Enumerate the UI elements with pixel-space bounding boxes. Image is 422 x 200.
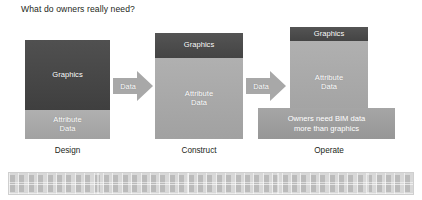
spreadsheet-strip-image xyxy=(8,172,414,195)
design-attribute-block: Attribute Data xyxy=(25,110,110,139)
operate-graphics-label: Graphics xyxy=(314,30,344,39)
spreadsheet-section-dividers xyxy=(9,173,413,194)
stage-caption-design: Design xyxy=(25,146,110,155)
data-arrow-2: Data xyxy=(246,71,286,101)
construct-attribute-block: Attribute Data xyxy=(155,58,243,139)
construct-graphics-label: Graphics xyxy=(184,41,214,50)
data-arrow-1: Data xyxy=(113,71,153,101)
design-attribute-label-line2: Data xyxy=(59,125,75,134)
page-title: What do owners really need? xyxy=(21,4,135,14)
construct-attribute-label-line2: Data xyxy=(191,99,207,108)
construct-graphics-block: Graphics xyxy=(155,33,243,58)
design-graphics-block: Graphics xyxy=(25,40,110,110)
operate-graphics-block: Graphics xyxy=(290,27,368,41)
diagram-canvas: What do owners really need? Graphics Att… xyxy=(0,0,422,200)
operate-attribute-label-line2: Data xyxy=(321,83,337,92)
data-arrow-1-label: Data xyxy=(113,82,143,91)
owners-callout: Owners need BIM data more than graphics xyxy=(258,108,395,139)
owners-callout-line1: Owners need BIM data xyxy=(288,114,366,124)
stage-caption-operate: Operate xyxy=(290,146,368,155)
stage-caption-construct: Construct xyxy=(155,146,243,155)
data-arrow-2-label: Data xyxy=(246,82,276,91)
design-graphics-label: Graphics xyxy=(52,71,82,80)
owners-callout-line2: more than graphics xyxy=(294,124,359,134)
